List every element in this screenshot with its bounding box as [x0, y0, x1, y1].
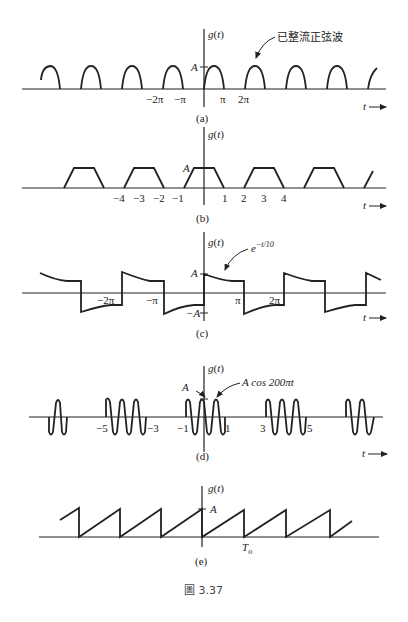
panel-b: g(t) A −4 −3 −2 −1 1 2 3 4 t (b): [22, 127, 386, 225]
period-label: To: [242, 541, 252, 556]
tick-2pi: 2π: [238, 93, 250, 105]
tick-neg-5: −5: [96, 422, 108, 434]
t-label: t: [362, 447, 366, 459]
tick-1: 1: [225, 422, 231, 434]
tick-neg-3: −3: [133, 192, 145, 204]
trapezoid-pulses: [64, 168, 373, 188]
tick-5: 5: [307, 422, 313, 434]
panel-label-a: (a): [196, 112, 209, 125]
y-axis-label: g(t): [208, 236, 224, 249]
tick-pi: π: [220, 93, 226, 105]
panel-a: 已整流正弦波 g(t) A −2π −π π 2π t (a): [22, 28, 386, 125]
tick-neg-pi: −π: [146, 294, 158, 306]
amplitude-label: A: [190, 61, 198, 73]
neg-amplitude-label: −A: [186, 307, 200, 319]
panel-label-c: (c): [196, 327, 209, 340]
annotation-rectified-sine: 已整流正弦波: [277, 30, 343, 44]
rectified-sine-curve: [41, 66, 377, 89]
panel-label-b: (b): [196, 212, 209, 225]
annotation-exponential: e−t/10: [251, 240, 274, 254]
amplitude-label: A: [182, 162, 190, 174]
y-axis-label: g(t): [208, 128, 224, 141]
tick-4: 4: [281, 192, 287, 204]
tick-neg-4: −4: [113, 192, 125, 204]
tick-pi: π: [235, 294, 241, 306]
tick-3: 3: [261, 192, 267, 204]
tick-neg-1: −1: [177, 422, 189, 434]
t-label: t: [363, 311, 367, 323]
annotation-arrow: [225, 249, 248, 270]
figure-caption: 圖 3.37: [184, 584, 223, 597]
annotation-arrow: [256, 37, 275, 58]
y-axis-label: g(t): [208, 28, 224, 41]
y-axis-label: g(t): [208, 362, 224, 375]
annotation-cosine: A cos 200πt: [241, 376, 295, 388]
figure-3-37: 已整流正弦波 g(t) A −2π −π π 2π t (a) g(t) A −…: [0, 0, 408, 622]
panel-label-e: (e): [195, 555, 208, 568]
tick-neg-2pi: −2π: [146, 93, 164, 105]
tick-neg-3: −3: [147, 422, 159, 434]
tick-1: 1: [222, 192, 228, 204]
panel-e: g(t) A To (e): [39, 482, 379, 568]
amplitude-label: A: [181, 381, 189, 393]
amplitude-label: A: [190, 267, 198, 279]
tick-neg-pi: −π: [174, 93, 186, 105]
amplitude-label: A: [209, 503, 217, 515]
tick-2: 2: [241, 192, 247, 204]
tick-neg-2pi: −2π: [97, 294, 115, 306]
y-axis-label: g(t): [208, 482, 224, 495]
sawtooth-curve: [60, 508, 352, 537]
tick-neg-1: −1: [172, 192, 184, 204]
t-label: t: [363, 199, 367, 211]
t-label: t: [363, 100, 367, 112]
annotation-arrow: [217, 383, 240, 397]
tick-2pi: 2π: [269, 294, 281, 306]
panel-label-d: (d): [196, 450, 209, 463]
tick-3: 3: [260, 422, 266, 434]
tick-neg-2: −2: [153, 192, 165, 204]
panel-c: e−t/10 g(t) A −A −2π −π π 2π t (c): [22, 232, 386, 340]
panel-d: A cos 200πt g(t) A −5 −3 −1 1 3 5 t (d): [29, 362, 387, 463]
